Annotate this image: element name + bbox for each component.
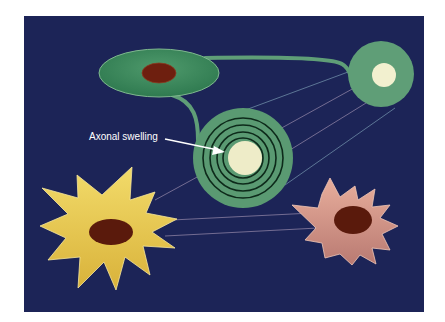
annotation-label: Axonal swelling [89,131,158,142]
yellow-cell-nucleus [89,219,133,245]
oligodendrocyte-nucleus [142,63,176,83]
oligodendrocyte-cell [99,49,219,97]
axonal-swelling-spiral [193,108,293,208]
pink-cell-nucleus [334,206,372,234]
axon-core-upper [372,63,396,87]
myelinated-axon-upper [348,41,414,107]
swollen-axon-core [228,141,262,175]
diagram-panel: Axonal swelling [24,16,424,312]
